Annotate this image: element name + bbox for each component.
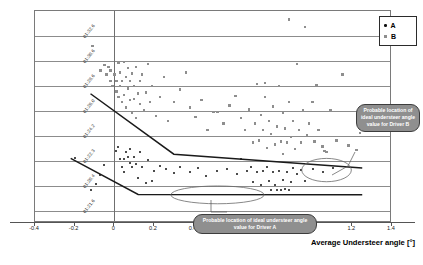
data-point-a — [205, 175, 207, 177]
x-tick-label: 1.2 — [347, 225, 355, 231]
data-point-a — [117, 146, 119, 148]
zero-vertical-line — [114, 11, 115, 221]
data-point-b — [107, 66, 109, 68]
data-point-a — [129, 148, 131, 150]
data-point-b — [276, 125, 278, 127]
data-point-b — [135, 117, 137, 119]
data-point-b — [294, 148, 296, 150]
data-point-a — [250, 166, 252, 168]
data-point-a — [246, 170, 248, 172]
data-point-b — [300, 141, 302, 143]
callout-driver-a: Probable location of ideal understeer an… — [193, 214, 317, 234]
data-point-a — [139, 151, 141, 153]
data-point-b — [119, 71, 121, 73]
data-point-b — [103, 64, 105, 66]
data-point-a — [189, 171, 191, 173]
data-point-a — [115, 150, 117, 152]
data-point-b — [252, 141, 254, 143]
data-point-b — [313, 140, 315, 142]
data-point-b — [179, 88, 181, 90]
data-point-a — [284, 188, 286, 190]
data-point-a — [173, 172, 175, 174]
data-point-a — [322, 171, 324, 173]
data-point-b — [91, 45, 93, 47]
data-point-a — [236, 173, 238, 175]
data-point-a — [123, 171, 125, 173]
data-point-b — [308, 122, 310, 124]
data-point-a — [141, 166, 143, 168]
data-point-b — [117, 62, 119, 64]
data-point-a — [268, 180, 270, 182]
data-point-b — [127, 87, 129, 89]
data-point-b — [286, 141, 288, 143]
data-point-b — [264, 96, 266, 98]
data-point-b — [254, 122, 256, 124]
data-point-b — [121, 80, 123, 82]
data-point-a — [99, 174, 101, 176]
data-point-a — [280, 189, 282, 191]
data-point-a — [151, 180, 153, 182]
data-point-a — [165, 168, 167, 170]
x-tick-label: -0.4 — [29, 225, 39, 231]
data-point-a — [256, 171, 258, 173]
data-point-a — [127, 156, 129, 158]
data-point-b — [222, 122, 224, 124]
data-point-a — [74, 157, 76, 159]
data-point-b — [131, 72, 133, 74]
data-point-b — [274, 143, 276, 145]
data-point-b — [260, 114, 262, 116]
data-point-a — [296, 173, 298, 175]
data-point-b — [292, 120, 294, 122]
data-point-b — [129, 99, 131, 101]
data-point-b — [121, 101, 123, 103]
data-point-a — [137, 177, 139, 179]
data-point-b — [131, 112, 133, 114]
data-point-a — [282, 179, 284, 181]
data-point-a — [252, 181, 254, 183]
x-tick-label: 0 — [112, 225, 115, 231]
x-tick-label: 0.2 — [149, 225, 157, 231]
data-point-b — [125, 76, 127, 78]
data-point-b — [147, 63, 149, 65]
data-point-b — [115, 90, 117, 92]
data-point-b — [321, 145, 323, 147]
data-point-a — [153, 170, 155, 172]
data-point-b — [149, 101, 151, 103]
data-point-a — [216, 170, 218, 172]
data-point-a — [262, 170, 264, 172]
data-point-b — [125, 106, 127, 108]
data-point-b — [335, 139, 337, 141]
data-point-b — [200, 99, 202, 101]
data-point-a — [290, 181, 292, 183]
data-point-b — [189, 106, 191, 108]
data-point-b — [258, 139, 260, 141]
data-point-b — [244, 129, 246, 131]
data-point-b — [141, 73, 143, 75]
data-point-a — [103, 164, 105, 166]
chart-figure: 01:32.601:30.601:28.601:26.001:24.201:22… — [0, 0, 423, 265]
data-point-b — [115, 80, 117, 82]
data-point-b — [341, 73, 343, 75]
data-point-b — [272, 105, 274, 107]
data-point-b — [123, 94, 125, 96]
data-point-a — [278, 170, 280, 172]
data-point-a — [300, 169, 302, 171]
data-point-b — [284, 127, 286, 129]
data-point-a — [266, 166, 268, 168]
data-point-b — [355, 149, 357, 151]
legend-item-b[interactable]: B — [384, 31, 412, 42]
data-point-b — [240, 117, 242, 119]
legend[interactable]: A B — [379, 16, 417, 46]
data-point-b — [133, 98, 135, 100]
data-point-a — [276, 189, 278, 191]
data-point-b — [139, 103, 141, 105]
data-point-a — [292, 167, 294, 169]
data-point-b — [155, 115, 157, 117]
data-point-b — [298, 129, 300, 131]
data-point-b — [105, 73, 107, 75]
x-axis-title: Average Understeer angle [°] — [311, 238, 415, 247]
data-point-a — [90, 189, 92, 191]
data-point-b — [194, 116, 196, 118]
legend-item-a[interactable]: A — [384, 20, 412, 31]
data-point-b — [296, 63, 298, 65]
